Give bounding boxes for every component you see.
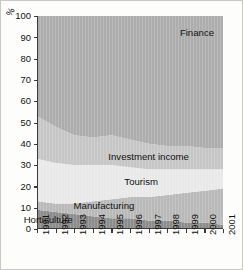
series-label-finance: Finance xyxy=(180,28,214,38)
x-tick-label: 1997 xyxy=(153,214,162,235)
y-tick-mark xyxy=(34,123,38,124)
y-tick-mark xyxy=(34,101,38,102)
stacked-area-plot xyxy=(37,16,223,229)
x-tick-label: 1993 xyxy=(78,214,87,235)
y-tick-mark xyxy=(34,80,38,81)
x-tick-mark xyxy=(130,229,131,233)
y-tick-label: 70 xyxy=(21,75,31,84)
y-tick-label: 80 xyxy=(21,54,31,63)
x-tick-label: 2001 xyxy=(227,214,236,235)
y-tick-mark xyxy=(34,37,38,38)
x-tick-mark xyxy=(167,229,168,233)
y-tick-label: 10 xyxy=(21,203,31,212)
x-tick-mark xyxy=(149,229,150,233)
series-label-manufacturing: Manufacturing xyxy=(74,201,135,211)
x-tick-label: 1996 xyxy=(134,214,143,235)
y-tick-mark xyxy=(34,16,38,17)
y-tick-label: 100 xyxy=(15,11,31,20)
y-tick-label: 20 xyxy=(21,182,31,191)
x-tick-label: 1994 xyxy=(97,214,106,235)
y-tick-mark xyxy=(34,59,38,60)
x-tick-label: 2000 xyxy=(208,214,217,235)
y-tick-label: 60 xyxy=(21,96,31,105)
x-tick-mark xyxy=(74,229,75,233)
x-tick-label: 1999 xyxy=(190,214,199,235)
x-tick-mark xyxy=(111,229,112,233)
chart-figure: % 1009080706050403020100 199119921993199… xyxy=(0,0,243,270)
y-tick-mark xyxy=(34,208,38,209)
series-label-horticulture: Horticulture xyxy=(24,215,73,225)
area-series-svg xyxy=(37,16,223,229)
y-tick-mark xyxy=(34,144,38,145)
x-tick-mark xyxy=(186,229,187,233)
x-tick-label: 1998 xyxy=(171,214,180,235)
y-tick-label: 0 xyxy=(26,224,31,233)
y-tick-mark xyxy=(34,186,38,187)
series-label-tourism: Tourism xyxy=(124,177,158,187)
x-tick-mark xyxy=(56,229,57,233)
y-tick-label: 40 xyxy=(21,139,31,148)
y-tick-label: 90 xyxy=(21,33,31,42)
x-tick-mark xyxy=(204,229,205,233)
y-tick-mark xyxy=(34,165,38,166)
x-tick-mark xyxy=(37,229,38,233)
y-tick-label: 50 xyxy=(21,118,31,127)
x-tick-mark xyxy=(93,229,94,233)
series-label-investment-income: Investment income xyxy=(108,152,189,162)
x-tick-mark xyxy=(223,229,224,233)
x-tick-label: 1995 xyxy=(115,214,124,235)
y-tick-label: 30 xyxy=(21,160,31,169)
